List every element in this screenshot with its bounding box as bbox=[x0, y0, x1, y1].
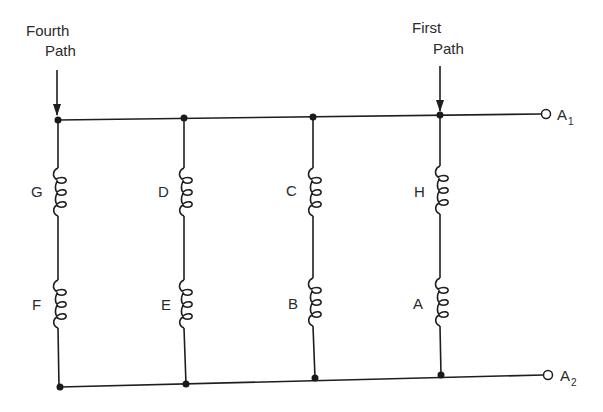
junction-dot-icon bbox=[55, 117, 62, 124]
coil-a-icon bbox=[436, 278, 449, 326]
first-path-arrow-head-icon bbox=[436, 100, 444, 112]
terminal-a2-subscript: 2 bbox=[571, 377, 577, 388]
fourth-path-arrow-head-icon bbox=[53, 104, 61, 116]
coil-b-label: B bbox=[288, 295, 298, 312]
coil-d-label: D bbox=[158, 183, 169, 200]
coil-c-icon bbox=[309, 168, 322, 216]
coil-g-icon bbox=[54, 168, 67, 216]
terminal-a2-circle-icon bbox=[544, 371, 553, 380]
branch-fourth-path: G F bbox=[31, 117, 66, 391]
terminal-a1-subscript: 1 bbox=[568, 116, 574, 127]
coil-b-icon bbox=[309, 278, 322, 326]
coil-c-label: C bbox=[286, 182, 297, 199]
coil-h-icon bbox=[436, 166, 449, 214]
branch-third-path: D E bbox=[158, 115, 192, 388]
coil-g-label: G bbox=[31, 183, 43, 200]
circuit-diagram: Fourth Path First Path A 1 A 2 G F bbox=[0, 0, 603, 412]
coil-d-icon bbox=[180, 168, 193, 216]
junction-dot-icon bbox=[181, 115, 188, 122]
fourth-path-label-line1: Fourth bbox=[26, 22, 69, 39]
junction-dot-icon bbox=[312, 375, 319, 382]
terminal-a1-letter: A bbox=[557, 106, 567, 123]
terminal-a2-letter: A bbox=[560, 367, 570, 384]
coil-f-icon bbox=[54, 280, 67, 328]
coil-e-label: E bbox=[161, 296, 171, 313]
junction-dot-icon bbox=[438, 372, 445, 379]
terminal-a1-circle-icon bbox=[542, 110, 551, 119]
junction-dot-icon bbox=[437, 112, 444, 119]
coil-a-label: A bbox=[413, 295, 423, 312]
junction-dot-icon bbox=[310, 114, 317, 121]
coil-h-label: H bbox=[414, 183, 425, 200]
terminal-a2: A 2 bbox=[544, 367, 578, 388]
junction-dot-icon bbox=[57, 384, 64, 391]
first-path-label-line1: First bbox=[412, 19, 442, 36]
first-path-annotation: First Path bbox=[412, 19, 464, 112]
first-path-label-line2: Path bbox=[433, 40, 464, 57]
branch-second-path: C B bbox=[286, 114, 321, 382]
branch-first-path: H A bbox=[413, 112, 448, 379]
bottom-rail-wire bbox=[60, 375, 543, 387]
coil-f-label: F bbox=[32, 296, 41, 313]
terminal-a1: A 1 bbox=[542, 106, 575, 127]
fourth-path-annotation: Fourth Path bbox=[26, 22, 76, 116]
top-rail-wire bbox=[58, 114, 541, 120]
junction-dot-icon bbox=[183, 381, 190, 388]
fourth-path-label-line2: Path bbox=[45, 42, 76, 59]
coil-e-icon bbox=[180, 280, 193, 328]
